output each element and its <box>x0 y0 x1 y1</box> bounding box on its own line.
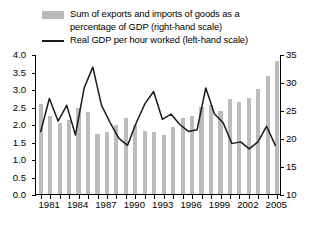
y-left-label-2.0: 2.0 <box>0 120 26 130</box>
y-right-tick-25 <box>280 111 284 112</box>
y-left-tick-0.5 <box>32 178 36 179</box>
y-left-label-4.0: 4.0 <box>0 50 26 60</box>
legend-item-line: Real GDP per hour worked (left-hand scal… <box>42 34 304 47</box>
y-right-tick-30 <box>280 83 284 84</box>
legend-bar-swatch-icon <box>42 11 64 19</box>
line-series-layer <box>36 55 280 194</box>
x-tick-2000 <box>230 195 231 199</box>
x-label-2005: 2005 <box>259 200 293 210</box>
legend-bars-label: Sum of exports and imports of goods as a… <box>70 8 240 33</box>
gdp-per-hour-line <box>41 67 276 149</box>
chart-figure: Sum of exports and imports of goods as a… <box>0 0 315 231</box>
y-left-label-3.5: 3.5 <box>0 68 26 78</box>
y-right-tick-10 <box>280 195 284 196</box>
y-left-label-0.5: 0.5 <box>0 173 26 183</box>
y-left-label-0.0: 0.0 <box>0 190 26 200</box>
y-left-label-1.0: 1.0 <box>0 155 26 165</box>
legend-line-swatch-icon <box>42 40 64 42</box>
y-left-tick-4.0 <box>32 55 36 56</box>
y-right-tick-35 <box>280 55 284 56</box>
y-left-label-1.5: 1.5 <box>0 138 26 148</box>
legend-item-bars: Sum of exports and imports of goods as a… <box>42 8 304 34</box>
chart-legend: Sum of exports and imports of goods as a… <box>42 8 304 47</box>
x-tick-1985 <box>88 195 89 199</box>
y-left-tick-3.5 <box>32 73 36 74</box>
y-left-tick-1.5 <box>32 143 36 144</box>
y-right-label-10: 10 <box>286 190 310 200</box>
y-right-label-30: 30 <box>286 78 310 88</box>
y-right-label-25: 25 <box>286 106 310 116</box>
y-right-label-20: 20 <box>286 134 310 144</box>
y-left-tick-3.0 <box>32 90 36 91</box>
y-right-label-35: 35 <box>286 50 310 60</box>
y-left-label-3.0: 3.0 <box>0 85 26 95</box>
y-right-label-15: 15 <box>286 162 310 172</box>
y-left-tick-0.0 <box>32 195 36 196</box>
y-left-tick-2.5 <box>32 108 36 109</box>
plot-area <box>35 55 281 195</box>
x-tick-1994 <box>173 195 174 199</box>
legend-line-label: Real GDP per hour worked (left-hand scal… <box>70 34 248 47</box>
y-right-tick-15 <box>280 167 284 168</box>
y-left-label-2.5: 2.5 <box>0 103 26 113</box>
y-left-tick-2.0 <box>32 125 36 126</box>
y-right-tick-20 <box>280 139 284 140</box>
y-left-tick-1.0 <box>32 160 36 161</box>
